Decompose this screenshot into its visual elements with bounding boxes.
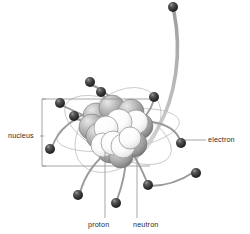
electron-sphere [96,87,106,97]
electron-sphere [176,138,186,148]
electron-sphere [69,111,79,121]
atom-diagram-canvas: g[data-name="electrons"] circle { fill: … [0,0,250,234]
label-electron: electron [208,136,235,143]
electron-sphere [85,77,95,87]
label-proton: proton [88,221,109,228]
electron-sphere [143,180,153,190]
atom-diagram: g[data-name="electrons"] circle { fill: … [0,0,250,234]
electron-sphere [191,168,201,178]
electron-sphere [73,190,83,200]
electron-sphere [55,98,65,108]
electron-sphere [111,198,121,208]
electron-sphere [45,144,55,154]
electron-sphere [168,2,178,12]
electron-sphere [149,92,159,102]
label-nucleus: nucleus [8,132,34,139]
label-neutron: neutron [133,221,158,228]
